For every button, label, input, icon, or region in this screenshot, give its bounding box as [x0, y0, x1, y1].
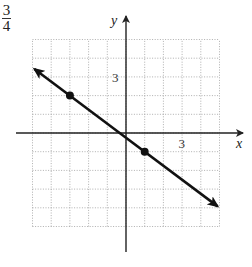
data-point [66, 92, 74, 100]
y-axis-label: y [109, 13, 118, 28]
line-segment-right [126, 138, 218, 207]
x-axis-label: x [235, 136, 243, 151]
coordinate-plane: xy33 [0, 0, 252, 267]
data-point [141, 148, 149, 156]
y-tick-label: 3 [112, 70, 119, 85]
axis-labels: xy33 [109, 13, 243, 151]
x-tick-label: 3 [179, 136, 186, 151]
axes [16, 16, 243, 252]
